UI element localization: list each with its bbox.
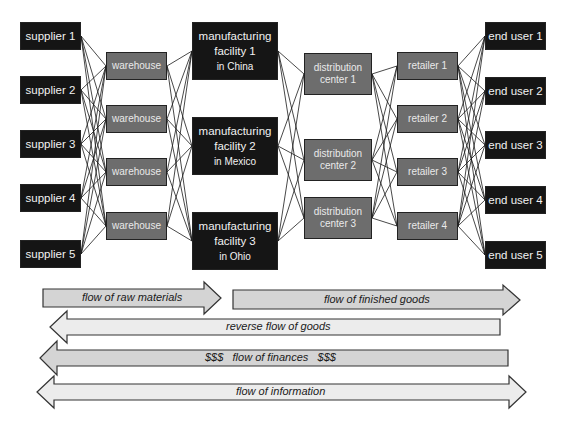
label-raw-materials: flow of raw materials [82, 291, 182, 303]
node-label: center 2 [320, 160, 356, 173]
supplier-1: supplier 1 [20, 22, 81, 50]
supplier-2: supplier 2 [20, 76, 81, 104]
distribution-center-3: distribution center 3 [304, 197, 372, 239]
node-label: warehouse [112, 113, 161, 126]
label-finances: $$$ flow of finances $$$ [205, 351, 336, 363]
node-label: manufacturing [199, 29, 272, 45]
end-user-5: end user 5 [485, 241, 546, 269]
node-label: end user 4 [488, 193, 542, 207]
supplier-4: supplier 4 [20, 184, 81, 212]
end-user-3: end user 3 [485, 131, 546, 159]
node-label: retailer 3 [408, 166, 447, 179]
manufacturing-facility-3: manufacturing facility 3 in Ohio [192, 212, 278, 270]
retailer-3: retailer 3 [397, 158, 458, 186]
supplier-5: supplier 5 [20, 240, 81, 268]
distribution-center-2: distribution center 2 [304, 139, 372, 181]
node-label: supplier 1 [26, 29, 76, 43]
end-user-1: end user 1 [485, 22, 546, 50]
node-location: in Ohio [219, 250, 251, 264]
node-location: in China [217, 60, 254, 74]
label-finished-goods: flow of finished goods [324, 293, 430, 305]
label-information: flow of information [236, 385, 325, 397]
node-label: facility 2 [214, 139, 256, 155]
node-label: end user 1 [488, 29, 542, 43]
warehouse-1: warehouse [106, 52, 167, 80]
node-label: manufacturing [199, 124, 272, 140]
node-label: warehouse [112, 166, 161, 179]
label-reverse-flow: reverse flow of goods [226, 320, 331, 332]
manufacturing-facility-1: manufacturing facility 1 in China [192, 22, 278, 80]
warehouse-2: warehouse [106, 105, 167, 133]
node-label: facility 1 [214, 44, 256, 60]
end-user-4: end user 4 [485, 186, 546, 214]
node-label: supplier 2 [26, 83, 76, 97]
node-label: facility 3 [214, 234, 256, 250]
supplier-3: supplier 3 [20, 130, 81, 158]
retailer-2: retailer 2 [397, 105, 458, 133]
end-user-2: end user 2 [485, 77, 546, 105]
node-label: end user 5 [488, 248, 542, 262]
distribution-center-1: distribution center 1 [304, 53, 372, 95]
node-label: distribution [314, 148, 362, 161]
node-label: retailer 1 [408, 60, 447, 73]
node-label: end user 2 [488, 84, 542, 98]
node-label: manufacturing [199, 219, 272, 235]
node-label: distribution [314, 62, 362, 75]
node-label: supplier 4 [26, 191, 76, 205]
manufacturing-facility-2: manufacturing facility 2 in Mexico [192, 117, 278, 175]
node-label: center 3 [320, 218, 356, 231]
node-label: retailer 2 [408, 113, 447, 126]
retailer-4: retailer 4 [397, 212, 458, 240]
node-location: in Mexico [214, 155, 256, 169]
node-label: retailer 4 [408, 220, 447, 233]
warehouse-3: warehouse [106, 158, 167, 186]
node-label: distribution [314, 206, 362, 219]
node-label: supplier 5 [26, 247, 76, 261]
node-label: center 1 [320, 74, 356, 87]
warehouse-4: warehouse [106, 212, 167, 240]
node-label: warehouse [112, 220, 161, 233]
node-label: warehouse [112, 60, 161, 73]
node-label: supplier 3 [26, 137, 76, 151]
retailer-1: retailer 1 [397, 52, 458, 80]
node-label: end user 3 [488, 138, 542, 152]
